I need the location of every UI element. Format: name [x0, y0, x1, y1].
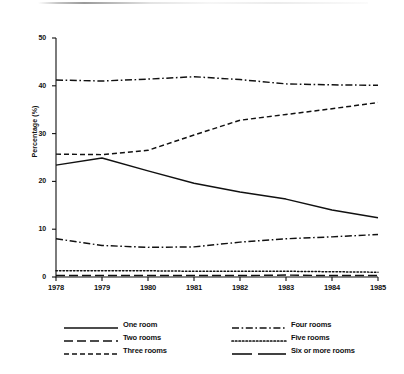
legend-item: Four rooms — [230, 319, 355, 330]
y-axis-tick-label: 0 — [24, 273, 46, 280]
legend-line-sample — [230, 348, 288, 359]
series-line-one-room — [56, 158, 378, 218]
x-axis-tick-label: 1985 — [358, 283, 398, 292]
legend-item: Two rooms — [62, 332, 167, 343]
x-axis-tick-label: 1983 — [266, 283, 306, 292]
legend-item: Five rooms — [230, 332, 355, 343]
x-axis-tick-label: 1981 — [174, 283, 214, 292]
legend-item-label: Four rooms — [288, 320, 331, 329]
series-line-three-rooms — [56, 103, 378, 155]
x-axis-tick-label: 1980 — [128, 283, 168, 292]
legend-item: Six or more rooms — [230, 345, 355, 356]
legend-swatch — [62, 345, 120, 356]
x-axis-tick-label: 1984 — [312, 283, 352, 292]
x-axis-tick-label: 1978 — [36, 283, 76, 292]
legend-item-label: Six or more rooms — [288, 346, 355, 355]
series-line-four-rooms — [56, 77, 378, 86]
legend-item-label: One room — [120, 320, 157, 329]
legend-swatch — [62, 332, 120, 343]
y-axis-tick-label: 20 — [24, 177, 46, 184]
y-axis-tick-label: 30 — [24, 130, 46, 137]
legend-swatch — [230, 345, 288, 356]
line-chart-figure: Percentage (%) 01020304050 1978197919801… — [0, 0, 404, 374]
legend-swatch — [230, 319, 288, 330]
legend-item: One room — [62, 319, 167, 330]
chart-legend: One roomTwo roomsThree rooms Four roomsF… — [62, 319, 392, 363]
y-axis-tick-label: 40 — [24, 82, 46, 89]
legend-swatch — [230, 332, 288, 343]
x-axis-tick-label: 1979 — [82, 283, 122, 292]
legend-column-left: One roomTwo roomsThree rooms — [62, 319, 167, 358]
x-axis-tick-label: 1982 — [220, 283, 260, 292]
series-line-five-rooms — [56, 271, 378, 272]
legend-line-sample — [62, 348, 120, 359]
legend-column-right: Four roomsFive roomsSix or more rooms — [230, 319, 355, 358]
plot-area — [0, 0, 404, 374]
y-axis-tick-label: 50 — [24, 34, 46, 41]
y-axis-tick-label: 10 — [24, 225, 46, 232]
legend-swatch — [62, 319, 120, 330]
legend-item: Three rooms — [62, 345, 167, 356]
legend-item-label: Two rooms — [120, 333, 161, 342]
legend-item-label: Three rooms — [120, 346, 167, 355]
axis-spines — [56, 38, 378, 277]
legend-item-label: Five rooms — [288, 333, 330, 342]
series-line-two-rooms — [56, 234, 378, 247]
